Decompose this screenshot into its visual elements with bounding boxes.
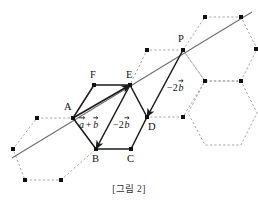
figure-caption: [그림 2] <box>0 181 258 195</box>
lattice-vertex <box>145 48 149 52</box>
svg-text:b: b <box>125 119 130 130</box>
hex-right-lower <box>188 81 257 145</box>
lattice-vertex <box>181 115 185 119</box>
lattice-vertex <box>254 47 258 51</box>
lattice-vertex <box>71 116 75 120</box>
lattice-vertex <box>94 147 98 151</box>
hex-upper-right <box>183 17 257 81</box>
svg-text:+: + <box>86 119 92 130</box>
vector-label-a-plus-b: a+b <box>79 116 98 130</box>
svg-text:b: b <box>179 82 184 93</box>
svg-text:−2: −2 <box>167 82 178 93</box>
figure-canvas: ABCDEFP a+b−2b−2b [그림 2] <box>0 0 258 202</box>
lattice-vertex <box>11 147 15 151</box>
svg-text:−2: −2 <box>113 119 124 130</box>
lattice-vertex <box>92 83 96 87</box>
lattice-vertex <box>239 79 243 83</box>
lattice-vertex <box>203 79 207 83</box>
svg-text:b: b <box>93 119 98 130</box>
lattice-vertex <box>129 147 133 151</box>
point-label-p: P <box>178 33 184 44</box>
point-label-f: F <box>90 69 96 80</box>
point-label-c: C <box>127 153 134 164</box>
lattice-vertex <box>181 48 185 52</box>
vector-label-minus-2b-right: −2b <box>167 79 184 93</box>
lattice-vertex <box>145 115 149 119</box>
svg-text:a: a <box>79 119 84 130</box>
lattice-vertex <box>203 15 207 19</box>
point-label-b: B <box>92 153 99 164</box>
vectors-layer <box>73 50 183 149</box>
point-label-e: E <box>126 69 132 80</box>
point-label-a: A <box>64 101 72 112</box>
lattice-vertex <box>128 83 132 87</box>
lattice-dots-layer <box>11 15 258 182</box>
point-label-d: D <box>148 121 156 132</box>
lattice-vertex <box>35 116 39 120</box>
dotted-hexagons-layer <box>13 17 257 180</box>
lattice-vertex <box>239 15 243 19</box>
diagram-svg: ABCDEFP a+b−2b−2b <box>0 0 258 202</box>
vector-label-minus-2b-left: −2b <box>113 116 130 130</box>
point-labels-layer: ABCDEFP <box>64 33 184 164</box>
